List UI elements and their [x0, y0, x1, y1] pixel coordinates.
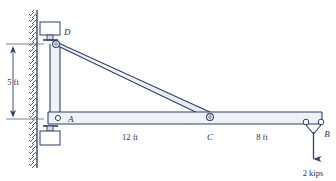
pin-joint-c-inner	[209, 116, 212, 119]
top-bracket-plate	[40, 22, 60, 35]
bottom-bracket-plate	[40, 131, 60, 145]
load-magnitude-label: 2 kips	[303, 168, 324, 178]
label-joint-d: D	[63, 27, 71, 37]
brace-upper-edge	[54, 41, 212, 113]
brace-lower-edge	[58, 46, 208, 118]
dimension-label-5ft: 5 ft	[7, 77, 19, 87]
pin-joint-d-inner	[55, 43, 58, 46]
dimension-label-12ft: 12 ft	[122, 132, 138, 142]
top-wall-bracket	[40, 22, 60, 40]
brace-body-fill	[54, 41, 212, 118]
label-joint-c: C	[207, 132, 214, 142]
load-application-group	[306, 125, 321, 159]
dimension-label-8ft: 8 ft	[256, 132, 268, 142]
bottom-wall-bracket	[40, 126, 60, 145]
pin-joint-b-left	[303, 119, 309, 125]
wall-group	[29, 10, 37, 168]
diagram-canvas: 5 ft D A C B 12 ft 8 ft 2 kips	[0, 0, 336, 181]
horizontal-beam-member	[48, 112, 322, 124]
wall-hatching	[29, 10, 37, 168]
vertical-dimension-group: 5 ft	[6, 44, 44, 119]
vertical-column-member	[50, 44, 60, 120]
pin-joint-b-right	[318, 119, 324, 125]
column-body-fill	[50, 44, 60, 120]
label-joint-b: B	[324, 129, 330, 139]
beam-body-fill	[48, 112, 322, 124]
label-joint-a: A	[67, 114, 74, 124]
structural-diagram: 5 ft D A C B 12 ft 8 ft 2 kips	[0, 0, 336, 181]
bottom-bracket-stem	[47, 126, 53, 131]
pin-joint-a	[55, 115, 60, 120]
